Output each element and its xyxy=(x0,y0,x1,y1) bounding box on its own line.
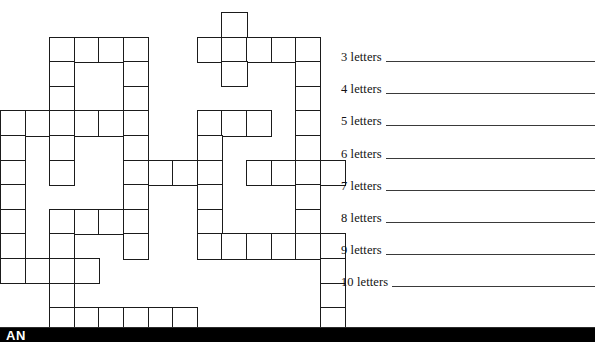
crossword-cell[interactable] xyxy=(49,160,75,186)
crossword-cell[interactable] xyxy=(172,160,198,186)
crossword-cell[interactable] xyxy=(123,110,149,136)
crossword-cell[interactable] xyxy=(49,258,75,284)
crossword-cell[interactable] xyxy=(49,135,75,161)
clue-row: 8 letters xyxy=(341,205,595,225)
crossword-cell[interactable] xyxy=(197,233,223,259)
clue-row: 10 letters xyxy=(341,269,595,289)
crossword-cell[interactable] xyxy=(0,160,26,186)
crossword-cell[interactable] xyxy=(221,37,247,63)
crossword-cell[interactable] xyxy=(221,110,247,136)
crossword-cell[interactable] xyxy=(271,37,297,63)
crossword-cell[interactable] xyxy=(0,184,26,210)
clue-row: 7 letters xyxy=(341,173,595,193)
answer-write-in-line[interactable] xyxy=(386,222,595,223)
crossword-cell[interactable] xyxy=(74,37,100,63)
crossword-cell[interactable] xyxy=(49,283,75,309)
crossword-cell[interactable] xyxy=(197,184,223,210)
crossword-cell[interactable] xyxy=(271,160,297,186)
crossword-cell[interactable] xyxy=(246,37,272,63)
crossword-cell[interactable] xyxy=(295,37,321,63)
clue-row: 9 letters xyxy=(341,237,595,257)
crossword-cell[interactable] xyxy=(0,258,26,284)
crossword-cell[interactable] xyxy=(49,233,75,259)
answer-write-in-line[interactable] xyxy=(386,158,595,159)
crossword-cell[interactable] xyxy=(123,209,149,235)
crossword-cell[interactable] xyxy=(49,61,75,87)
crossword-cell[interactable] xyxy=(123,135,149,161)
clue-row: 6 letters xyxy=(341,141,595,161)
crossword-cell[interactable] xyxy=(123,184,149,210)
crossword-cell[interactable] xyxy=(49,209,75,235)
clue-list: 3 letters4 letters5 letters6 letters7 le… xyxy=(341,44,595,304)
clue-length-label: 9 letters xyxy=(341,243,386,257)
crossword-cell[interactable] xyxy=(123,86,149,112)
crossword-cell[interactable] xyxy=(74,209,100,235)
crossword-cell[interactable] xyxy=(295,233,321,259)
clue-length-label: 6 letters xyxy=(341,147,386,161)
crossword-cell[interactable] xyxy=(25,258,51,284)
crossword-cell[interactable] xyxy=(98,209,124,235)
crossword-cell[interactable] xyxy=(123,37,149,63)
crossword-cell[interactable] xyxy=(197,37,223,63)
clue-length-label: 5 letters xyxy=(341,114,386,128)
crossword-cell[interactable] xyxy=(295,110,321,136)
crossword-cell[interactable] xyxy=(49,86,75,112)
crossword-cell[interactable] xyxy=(0,233,26,259)
crossword-cell[interactable] xyxy=(49,110,75,136)
clue-length-label: 3 letters xyxy=(341,50,386,64)
answer-write-in-line[interactable] xyxy=(392,286,595,287)
crossword-cell[interactable] xyxy=(221,233,247,259)
clue-row: 3 letters xyxy=(341,44,595,64)
clue-length-label: 4 letters xyxy=(341,82,386,96)
crossword-cell[interactable] xyxy=(148,160,174,186)
crossword-cell[interactable] xyxy=(295,209,321,235)
footer-bar: AN xyxy=(0,328,595,342)
clue-row: 5 letters xyxy=(341,108,595,128)
crossword-cell[interactable] xyxy=(295,160,321,186)
crossword-cell[interactable] xyxy=(98,110,124,136)
crossword-cell[interactable] xyxy=(295,61,321,87)
crossword-cell[interactable] xyxy=(25,110,51,136)
clue-length-label: 8 letters xyxy=(341,211,386,225)
clue-row: 4 letters xyxy=(341,76,595,96)
clue-length-label: 7 letters xyxy=(341,179,386,193)
crossword-cell[interactable] xyxy=(246,233,272,259)
crossword-cell[interactable] xyxy=(197,135,223,161)
answer-write-in-line[interactable] xyxy=(386,190,595,191)
crossword-cell[interactable] xyxy=(221,12,247,38)
clue-length-label: 10 letters xyxy=(341,275,392,289)
crossword-cell[interactable] xyxy=(295,86,321,112)
crossword-cell[interactable] xyxy=(123,61,149,87)
answer-write-in-line[interactable] xyxy=(386,125,595,126)
crossword-cell[interactable] xyxy=(197,209,223,235)
worksheet-page: 3 letters4 letters5 letters6 letters7 le… xyxy=(0,0,595,342)
crossword-cell[interactable] xyxy=(123,233,149,259)
crossword-cell[interactable] xyxy=(0,110,26,136)
crossword-cell[interactable] xyxy=(98,37,124,63)
crossword-cell[interactable] xyxy=(271,233,297,259)
answer-write-in-line[interactable] xyxy=(386,61,595,62)
crossword-cell[interactable] xyxy=(74,110,100,136)
crossword-cell[interactable] xyxy=(49,37,75,63)
footer-bar-text: AN xyxy=(6,329,26,342)
crossword-cell[interactable] xyxy=(197,160,223,186)
crossword-cell[interactable] xyxy=(221,61,247,87)
crossword-cell[interactable] xyxy=(295,135,321,161)
crossword-cell[interactable] xyxy=(0,135,26,161)
crossword-grid[interactable] xyxy=(0,0,345,330)
crossword-cell[interactable] xyxy=(0,209,26,235)
answer-write-in-line[interactable] xyxy=(386,254,595,255)
crossword-cell[interactable] xyxy=(295,184,321,210)
crossword-cell[interactable] xyxy=(197,110,223,136)
crossword-cell[interactable] xyxy=(123,160,149,186)
answer-write-in-line[interactable] xyxy=(386,93,595,94)
crossword-cell[interactable] xyxy=(246,110,272,136)
crossword-cell[interactable] xyxy=(74,258,100,284)
crossword-cell[interactable] xyxy=(246,160,272,186)
